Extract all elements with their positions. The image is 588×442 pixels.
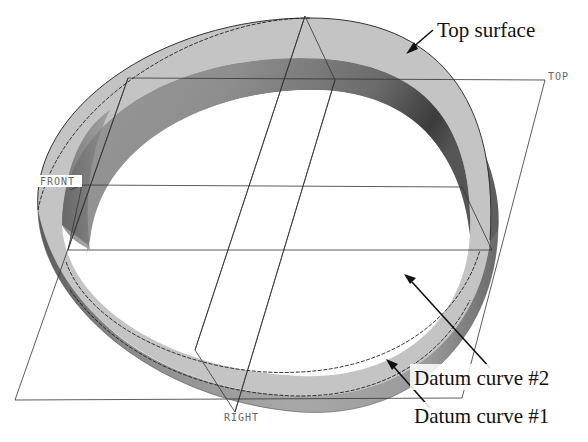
right-label: RIGHT — [224, 412, 259, 423]
top-surface-label: Top surface — [437, 18, 535, 42]
top-label: TOP — [548, 71, 569, 82]
datum-curve-2-label: Datum curve #2 — [414, 366, 549, 390]
cad-ring-diagram: FRONT TOP RIGHT Top surface Datum curve … — [0, 0, 588, 442]
datum-curve-1-label: Datum curve #1 — [414, 404, 549, 428]
front-label: FRONT — [40, 176, 75, 187]
